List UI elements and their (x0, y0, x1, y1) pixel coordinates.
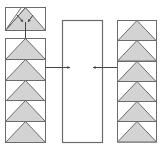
right-triangle-stack (118, 21, 157, 143)
diagram-canvas (0, 0, 163, 158)
right-cell-4 (118, 82, 157, 103)
right-cell-1 (118, 21, 157, 42)
left-cell-4 (6, 101, 46, 122)
center-box (63, 21, 103, 143)
left-cell-1 (6, 39, 46, 60)
right-cell-3 (118, 62, 157, 83)
left-triangle-stack (6, 39, 46, 143)
right-cell-6 (118, 122, 157, 143)
right-cell-5 (118, 102, 157, 123)
center-rectangle (63, 21, 103, 143)
left-cell-2 (6, 60, 46, 81)
left-cell-3 (6, 81, 46, 102)
right-cell-2 (118, 41, 157, 62)
left-cell-5 (6, 122, 46, 143)
